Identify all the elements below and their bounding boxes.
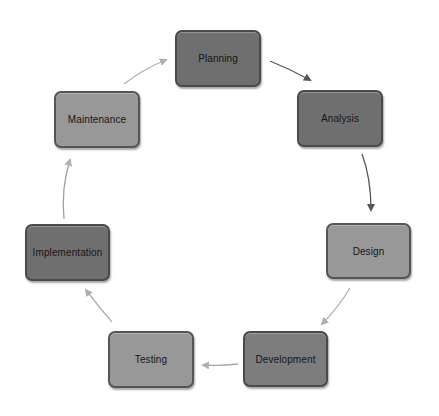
arrow-maintenance-to-planning	[124, 60, 166, 84]
node-testing[interactable]: Testing	[108, 331, 194, 388]
node-development[interactable]: Development	[243, 331, 328, 387]
arrow-implementation-to-maintenance	[63, 160, 70, 219]
node-planning[interactable]: Planning	[175, 30, 261, 87]
sdlc-cycle-diagram: Planning Analysis Design Development Tes…	[0, 0, 439, 416]
arrow-testing-to-implementation	[86, 290, 112, 322]
node-implementation[interactable]: Implementation	[25, 224, 110, 281]
node-label-analysis: Analysis	[321, 112, 359, 124]
node-label-testing: Testing	[135, 353, 167, 365]
arrow-development-to-testing	[203, 364, 238, 365]
node-label-implementation: Implementation	[33, 246, 103, 258]
node-label-planning: Planning	[198, 52, 238, 64]
node-design[interactable]: Design	[326, 223, 411, 279]
arrow-planning-to-analysis	[270, 61, 310, 80]
arrow-analysis-to-design	[362, 154, 371, 210]
arrow-design-to-development	[322, 288, 350, 324]
node-analysis[interactable]: Analysis	[297, 90, 383, 147]
node-label-design: Design	[353, 245, 385, 257]
node-maintenance[interactable]: Maintenance	[54, 91, 140, 148]
node-label-development: Development	[255, 353, 315, 365]
node-label-maintenance: Maintenance	[68, 113, 126, 125]
